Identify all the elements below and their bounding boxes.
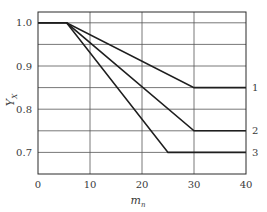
series-labels: 123 [252,82,258,158]
y-tick-label: 1.0 [16,17,32,28]
grid-lines [38,12,246,174]
series-label-3: 3 [252,147,258,158]
y-tick-labels: 1.00.90.80.7 [16,17,32,158]
x-tick-label: 30 [188,179,201,190]
series-label-1: 1 [252,82,258,93]
x-tick-labels: 010203040 [35,179,253,190]
y-tick-label: 0.7 [16,147,32,158]
chart: 010203040 1.00.90.80.7 123 mn YX [0,0,267,212]
y-tick-label: 0.9 [16,61,32,72]
x-tick-label: 20 [136,179,149,190]
x-tick-label: 40 [240,179,253,190]
x-axis-label: mn [131,194,146,209]
y-axis-label: YX [4,93,19,106]
x-tick-label: 0 [35,179,41,190]
series-label-2: 2 [252,125,258,136]
y-tick-label: 0.8 [16,104,32,115]
x-tick-label: 10 [84,179,97,190]
